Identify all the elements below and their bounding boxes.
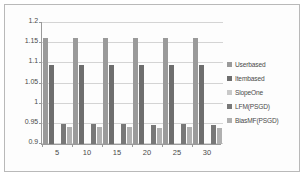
plot-area: 0.90.9511.051.11.151.2 51015202530 [41,23,221,145]
bar [127,127,132,144]
legend-label: BiasMF(PSGD) [235,117,279,124]
x-tick-mark [72,144,73,147]
bar [139,65,144,144]
bar [49,65,54,144]
bar [73,38,78,144]
y-axis-tick-label: 0.95 [25,117,38,124]
bar-group: 5 [42,23,72,144]
bar [91,124,96,144]
bar-group: 20 [132,23,162,144]
bar [79,65,84,144]
x-axis-tick-label: 10 [83,148,91,157]
bar [67,127,72,144]
bar [43,38,48,144]
bar [199,65,204,144]
x-tick-mark [162,144,163,147]
bar [163,38,168,144]
x-tick-mark [192,144,193,147]
legend-label: LFM(PSGD) [235,103,270,110]
legend-swatch-icon [227,118,232,123]
legend-swatch-icon [227,90,232,95]
x-tick-mark [102,144,103,147]
bar [157,128,162,144]
legend-item[interactable]: BiasMF(PSGD) [227,113,299,127]
bar-groups: 51015202530 [42,23,221,144]
bar [193,38,198,144]
bar [169,65,174,144]
x-tick-mark [42,144,43,147]
bar [109,65,114,144]
x-axis-tick-label: 20 [143,148,151,157]
y-axis-tick-label: 1.2 [29,17,38,24]
legend-label: Itembased [235,75,264,82]
bar [133,38,138,144]
bar [151,125,156,144]
y-axis-tick-label: 1 [34,97,38,104]
x-axis-tick-label: 30 [203,148,211,157]
legend-label: Userbased [235,61,266,68]
bar-group: 30 [192,23,222,144]
x-tick-mark [132,144,133,147]
bar [211,125,216,144]
x-axis-tick-label: 5 [55,148,59,157]
y-axis-tick-label: 1.15 [25,37,38,44]
legend-item[interactable]: Userbased [227,57,299,71]
bar [61,124,66,144]
y-axis-tick-label: 1.05 [25,77,38,84]
legend-item[interactable]: LFM(PSGD) [227,99,299,113]
bar [121,124,126,144]
chart-legend: UserbasedItembasedSlopeOneLFM(PSGD)BiasM… [227,57,299,127]
bar-group: 10 [72,23,102,144]
bar-group: 25 [162,23,192,144]
x-axis-tick-label: 25 [173,148,181,157]
legend-swatch-icon [227,76,232,81]
legend-swatch-icon [227,104,232,109]
y-axis-tick-label: 1.1 [29,57,38,64]
bar-group: 15 [102,23,132,144]
bar [187,127,192,144]
legend-label: SlopeOne [235,89,263,96]
legend-swatch-icon [227,62,232,67]
bar [97,127,102,144]
bar [103,38,108,144]
bar [181,124,186,144]
legend-item[interactable]: SlopeOne [227,85,299,99]
chart-frame: 0.90.9511.051.11.151.2 51015202530 Userb… [4,4,300,172]
x-axis-tick-label: 15 [113,148,121,157]
legend-item[interactable]: Itembased [227,71,299,85]
y-axis-tick-label: 0.9 [29,138,38,145]
bar [217,128,222,144]
